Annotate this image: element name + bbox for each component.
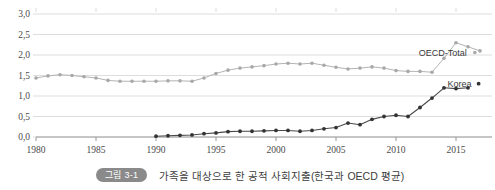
series-oecd-total: OECD-Total	[34, 41, 482, 83]
data-point	[58, 73, 62, 77]
data-point	[298, 129, 302, 133]
data-point	[322, 127, 326, 131]
xtick-label: 2015	[447, 145, 466, 155]
data-point	[334, 126, 338, 130]
data-point	[346, 121, 350, 125]
data-point	[226, 130, 230, 134]
data-point	[154, 134, 158, 138]
series-label-marker	[477, 82, 481, 86]
data-point	[94, 76, 98, 80]
data-point	[214, 131, 218, 135]
data-point	[118, 79, 122, 83]
series-korea: Korea	[154, 79, 480, 138]
data-point	[310, 61, 314, 65]
data-point	[430, 70, 434, 74]
data-point	[382, 66, 386, 70]
ytick-label: 3,0	[18, 9, 30, 19]
data-point	[346, 67, 350, 71]
ytick-label: 2,5	[18, 30, 30, 40]
series-label: Korea	[448, 79, 472, 89]
data-point	[418, 106, 422, 110]
figure-caption-row: 그림 3-1 가족을 대상으로 한 공적 사회지출(한국과 OECD 평균)	[0, 160, 495, 190]
data-point	[238, 66, 242, 70]
data-point	[358, 66, 362, 70]
data-point	[430, 96, 434, 100]
data-point	[286, 61, 290, 65]
data-point	[166, 134, 170, 138]
line-chart: 0,00,51,01,52,02,53,01980198519901995200…	[0, 0, 495, 160]
ytick-label: 2,0	[18, 50, 30, 60]
data-point	[358, 123, 362, 127]
data-point	[190, 79, 194, 83]
ytick-label: 0,5	[18, 112, 30, 122]
data-point	[298, 62, 302, 66]
data-point	[406, 70, 410, 74]
data-point	[202, 76, 206, 80]
data-point	[214, 72, 218, 76]
data-point	[178, 79, 182, 83]
data-point	[370, 117, 374, 121]
data-point	[334, 66, 338, 70]
ytick-label: 0,0	[18, 132, 30, 142]
data-point	[34, 76, 38, 80]
data-point	[178, 133, 182, 137]
data-point	[274, 62, 278, 66]
data-point	[406, 115, 410, 119]
data-point	[370, 65, 374, 69]
data-point	[442, 86, 446, 90]
data-point	[166, 79, 170, 83]
data-point	[286, 129, 290, 133]
ytick-label: 1,0	[18, 91, 30, 101]
data-point	[82, 75, 86, 79]
ytick-label: 1,5	[18, 71, 30, 81]
data-point	[46, 74, 50, 78]
xtick-label: 2010	[387, 145, 406, 155]
xtick-label: 1995	[207, 145, 226, 155]
data-point	[478, 49, 482, 53]
data-point	[454, 41, 458, 45]
series-label-marker	[473, 51, 477, 55]
data-point	[274, 129, 278, 133]
data-point	[130, 79, 134, 83]
data-point	[394, 113, 398, 117]
chart-plot-area: 0,00,51,01,52,02,53,01980198519901995200…	[0, 0, 495, 160]
data-point	[382, 115, 386, 119]
figure-number-badge: 그림 3-1	[96, 168, 147, 182]
series-label: OECD-Total	[419, 48, 467, 58]
data-point	[154, 79, 158, 83]
xtick-label: 2000	[267, 145, 286, 155]
xtick-label: 1985	[87, 145, 106, 155]
xtick-label: 1980	[27, 145, 46, 155]
data-point	[322, 63, 326, 67]
data-point	[226, 68, 230, 72]
xtick-label: 2005	[327, 145, 346, 155]
data-point	[238, 129, 242, 133]
data-point	[262, 129, 266, 133]
data-point	[190, 133, 194, 137]
data-point	[310, 129, 314, 133]
data-point	[418, 70, 422, 74]
data-point	[394, 69, 398, 73]
data-point	[262, 64, 266, 68]
data-point	[106, 79, 110, 83]
data-point	[202, 132, 206, 136]
figure-caption-text: 가족을 대상으로 한 공적 사회지출(한국과 OECD 평균)	[159, 168, 404, 183]
data-point	[70, 74, 74, 78]
figure-container: 0,00,51,01,52,02,53,01980198519901995200…	[0, 0, 495, 190]
xtick-label: 1990	[147, 145, 166, 155]
data-point	[250, 65, 254, 69]
data-point	[142, 79, 146, 83]
data-point	[250, 129, 254, 133]
